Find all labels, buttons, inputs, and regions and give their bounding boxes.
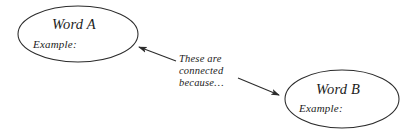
connector-label-line-2: connected — [179, 65, 223, 77]
node-title-word-b: Word B — [316, 81, 360, 98]
node-example-word-a: Example: — [33, 38, 77, 50]
arrow-to-word-b — [238, 78, 279, 95]
node-ellipse-word-b — [285, 70, 399, 128]
node-title-word-a: Word A — [52, 16, 96, 33]
connector-label-line-3: because… — [179, 77, 224, 89]
connector-label-line-1: These are — [179, 53, 222, 65]
node-ellipse-word-a — [18, 6, 138, 62]
node-example-word-b: Example: — [299, 102, 343, 114]
diagram-canvas: Word A Example: Word B Example: These ar… — [0, 0, 411, 140]
arrow-to-word-a — [139, 47, 176, 61]
